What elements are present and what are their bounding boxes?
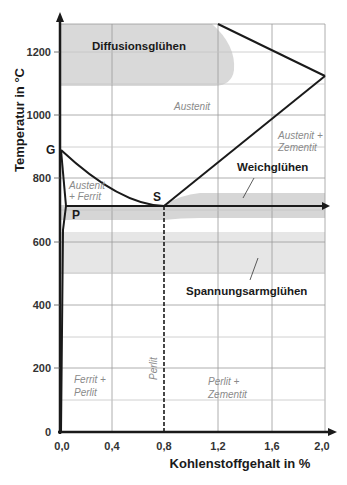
x-tick-1-2: 1,2 <box>210 440 225 452</box>
x-tick-0-0: 0,0 <box>54 440 69 452</box>
x-tick-2-0: 2,0 <box>314 440 329 452</box>
iron-carbon-phase-diagram: 1200 1000 800 600 400 200 0 0,0 0,4 0,8 … <box>0 0 347 485</box>
region-austenit-ferrit-2: + Ferrit <box>69 191 102 202</box>
region-austenit-ferrit-1: Austenit <box>68 180 106 191</box>
region-perlit-zementit-1: Perlit + <box>208 376 240 387</box>
y-axis-arrow-icon <box>56 12 64 22</box>
y-axis-title: Temperatur in °C <box>12 67 27 172</box>
y-tick-1000: 1000 <box>27 109 51 121</box>
region-ferrit-perlit-1: Ferrit + <box>74 374 106 385</box>
line-SE <box>164 76 325 206</box>
diffusion-annealing-band <box>60 24 234 86</box>
region-austenit-zementit-2: Zementit <box>277 142 318 153</box>
region-ferrit-perlit-2: Perlit <box>74 387 98 398</box>
x-tick-0-4: 0,4 <box>104 440 120 452</box>
point-S: S <box>153 190 161 204</box>
y-tick-800: 800 <box>33 172 51 184</box>
x-tick-1-6: 1,6 <box>264 440 279 452</box>
x-axis-title: Kohlenstoffgehalt in % <box>170 456 311 471</box>
region-perlit: Perlit <box>148 356 159 380</box>
label-weichgluehen: Weichglühen <box>237 161 308 173</box>
region-austenit: Austenit <box>173 101 211 112</box>
label-diffusionsgluehen: Diffusionsglühen <box>92 40 186 52</box>
y-tick-0: 0 <box>45 426 51 438</box>
y-tick-400: 400 <box>33 299 51 311</box>
psk-arrow-icon <box>322 202 330 210</box>
stress-relief-band <box>60 232 325 274</box>
point-P: P <box>72 208 80 222</box>
region-austenit-zementit-1: Austenit + <box>277 130 323 141</box>
x-axis-arrow-icon <box>328 428 337 436</box>
y-tick-200: 200 <box>33 362 51 374</box>
label-spannungsarmgluehen: Spannungsarmglühen <box>186 285 307 297</box>
y-tick-600: 600 <box>33 236 51 248</box>
y-tick-1200: 1200 <box>27 46 51 58</box>
x-tick-0-8: 0,8 <box>156 440 171 452</box>
point-G: G <box>46 143 55 157</box>
region-perlit-zementit-2: Zementit <box>207 389 248 400</box>
